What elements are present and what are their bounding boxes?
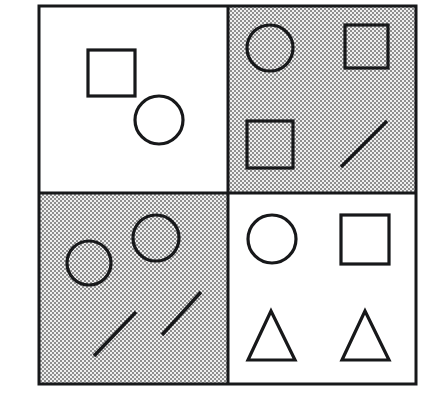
figure-canvas [0,0,427,411]
quadrant-background-top-left [39,6,228,193]
quadrant-figure [0,0,427,411]
quadrant-background-bottom-left [39,193,228,384]
